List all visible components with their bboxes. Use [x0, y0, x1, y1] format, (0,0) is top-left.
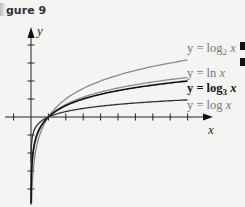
edge-mark: [240, 58, 245, 66]
y-axis-arrow: [28, 27, 35, 38]
curve-label-log2: y = log2 x: [187, 41, 236, 57]
curve-log2: [32, 60, 188, 203]
x-axis-label: x: [207, 122, 214, 137]
edge-mark: [240, 42, 245, 50]
axes: xy: [5, 23, 214, 205]
log-curves-plot: xy y = log2 xy = ln xy = log3 xy = log x: [0, 0, 245, 207]
curve-label-log3: y = log3 x: [187, 81, 236, 97]
y-axis-label: y: [35, 23, 43, 38]
x-axis-arrow: [203, 114, 213, 121]
curve-log3: [31, 81, 188, 203]
curve-ln: [31, 77, 187, 203]
curve-label-ln: y = ln x: [187, 66, 225, 80]
curves: [31, 60, 188, 203]
curve-label-log10: y = log x: [187, 98, 232, 112]
curve-labels: y = log2 xy = ln xy = log3 xy = log x: [187, 41, 236, 112]
